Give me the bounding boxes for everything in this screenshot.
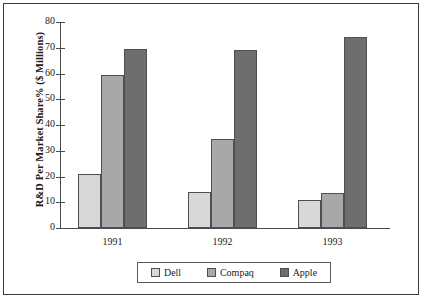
y-tick-label: 40 (45, 118, 55, 130)
y-tick-label: 30 (45, 144, 55, 156)
x-axis-line (60, 228, 390, 229)
y-tick-10: 10 (60, 202, 69, 203)
bar-dell-1991 (78, 174, 101, 228)
legend-label: Dell (164, 267, 181, 278)
legend-item-dell[interactable]: Dell (151, 267, 181, 278)
chart-figure: R&D Per Market Share% ($ Millions) 01020… (3, 3, 419, 295)
bar-dell-1992 (188, 192, 211, 228)
chart-legend: DellCompaqApple (137, 262, 331, 283)
y-tick-mark (56, 74, 65, 75)
y-axis-title: R&D Per Market Share% ($ Millions) (34, 15, 45, 225)
y-tick-40: 40 (60, 125, 69, 126)
y-tick-mark (56, 22, 65, 23)
legend-swatch-dell (151, 268, 160, 277)
bar-apple-1992 (234, 50, 257, 228)
y-tick-30: 30 (60, 151, 69, 152)
bar-apple-1993 (344, 37, 367, 228)
bar-compaq-1991 (101, 75, 124, 228)
y-tick-label: 10 (45, 195, 55, 207)
y-tick-mark (56, 151, 65, 152)
y-tick-80: 80 (60, 22, 69, 23)
y-tick-mark (56, 202, 65, 203)
legend-item-apple[interactable]: Apple (280, 267, 317, 278)
y-tick-0: 0 (60, 228, 69, 229)
legend-item-compaq[interactable]: Compaq (207, 267, 254, 278)
bar-compaq-1992 (211, 139, 234, 228)
x-tick-label-1993: 1993 (303, 236, 363, 247)
y-tick-70: 70 (60, 48, 69, 49)
y-tick-mark (56, 48, 65, 49)
y-tick-mark (56, 228, 65, 229)
plot-area: 01020304050607080 199119921993 (60, 22, 390, 228)
y-tick-label: 60 (45, 67, 55, 79)
y-tick-50: 50 (60, 99, 69, 100)
y-tick-60: 60 (60, 74, 69, 75)
x-tick-label-1991: 1991 (83, 236, 143, 247)
legend-label: Compaq (220, 267, 254, 278)
y-tick-mark (56, 125, 65, 126)
y-tick-label: 0 (50, 221, 55, 233)
x-tick-label-1992: 1992 (193, 236, 253, 247)
legend-swatch-compaq (207, 268, 216, 277)
y-tick-label: 80 (45, 15, 55, 27)
y-tick-label: 20 (45, 170, 55, 182)
y-tick-mark (56, 177, 65, 178)
legend-swatch-apple (280, 268, 289, 277)
bar-compaq-1993 (321, 193, 344, 228)
y-tick-mark (56, 99, 65, 100)
bar-dell-1993 (298, 200, 321, 228)
legend-label: Apple (293, 267, 317, 278)
y-tick-label: 70 (45, 41, 55, 53)
y-tick-20: 20 (60, 177, 69, 178)
y-tick-label: 50 (45, 92, 55, 104)
bar-apple-1991 (124, 49, 147, 228)
